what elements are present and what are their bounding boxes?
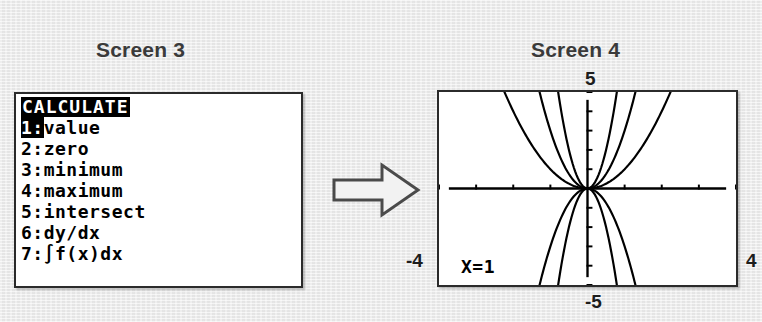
- menu-title-calculate: CALCULATE: [21, 97, 130, 117]
- menu-label-intersect: intersect: [44, 201, 146, 222]
- calculate-menu-list: 1:value 2:zero 3:minimum 4:maximum 5:int…: [21, 117, 293, 264]
- window-label-xmin: -4: [406, 250, 423, 272]
- menu-key-3: 3:: [21, 159, 44, 180]
- menu-label-dydx: dy/dx: [44, 222, 101, 243]
- calculator-screen-3: CALCULATE 1:value 2:zero 3:minimum 4:max…: [14, 92, 303, 288]
- menu-key-6: 6:: [21, 222, 44, 243]
- trace-readout-x: X=1: [461, 256, 495, 277]
- menu-key-7: 7:: [21, 243, 44, 264]
- caption-screen-3: Screen 3: [96, 38, 185, 62]
- menu-key-2: 2:: [21, 138, 44, 159]
- menu-key-1: 1:: [21, 117, 44, 138]
- menu-label-zero: zero: [44, 138, 89, 159]
- menu-item-integral[interactable]: 7:∫f(x)dx: [21, 243, 293, 264]
- caption-screen-4: Screen 4: [531, 38, 620, 62]
- right-arrow-icon: [330, 160, 422, 220]
- menu-key-5: 5:: [21, 201, 44, 222]
- menu-item-dydx[interactable]: 6:dy/dx: [21, 222, 293, 243]
- window-label-xmax: 4: [746, 250, 757, 272]
- calculate-menu: CALCULATE 1:value 2:zero 3:minimum 4:max…: [21, 97, 293, 264]
- window-label-ymin: -5: [585, 291, 602, 313]
- menu-item-value[interactable]: 1:value: [21, 117, 293, 138]
- menu-item-minimum[interactable]: 3:minimum: [21, 159, 293, 180]
- window-label-ymax: 5: [585, 68, 596, 90]
- menu-item-zero[interactable]: 2:zero: [21, 138, 293, 159]
- menu-label-maximum: maximum: [44, 180, 123, 201]
- menu-label-value: value: [44, 117, 101, 138]
- menu-label-integral: ∫f(x)dx: [44, 243, 123, 264]
- menu-item-maximum[interactable]: 4:maximum: [21, 180, 293, 201]
- calculator-screen-4: X=1: [437, 90, 738, 287]
- menu-key-4: 4:: [21, 180, 44, 201]
- menu-label-minimum: minimum: [44, 159, 123, 180]
- menu-item-intersect[interactable]: 5:intersect: [21, 201, 293, 222]
